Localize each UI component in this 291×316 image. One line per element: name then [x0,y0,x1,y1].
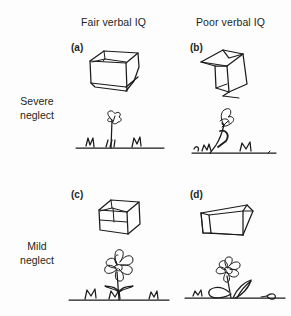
row-label-mild-neglect: Mild neglect [4,239,70,267]
row-label-mild-line1: Mild [4,239,70,253]
column-header-fair-verbal-iq: Fair verbal IQ [81,16,146,28]
row-label-severe-line1: Severe [4,94,70,108]
flower-drawing-panel-a [72,110,168,156]
row-label-severe-neglect: Severe neglect [4,94,70,122]
row-label-severe-line2: neglect [4,108,70,122]
cube-drawing-panel-b [199,44,257,100]
cube-drawing-panel-a [86,47,142,95]
panel-letter-d: (d) [190,189,203,200]
flower-drawing-panel-c [65,246,173,310]
flower-drawing-panel-b [182,101,280,163]
column-header-poor-verbal-iq: Poor verbal IQ [196,16,265,28]
panel-letter-a: (a) [71,42,83,53]
neglect-drawings-figure: Fair verbal IQ Poor verbal IQ Severe neg… [0,0,291,316]
row-label-mild-line2: neglect [4,253,70,267]
cube-drawing-panel-d [199,203,255,241]
cube-drawing-panel-c [97,198,143,240]
flower-drawing-panel-d [183,248,287,310]
panel-letter-c: (c) [71,189,83,200]
